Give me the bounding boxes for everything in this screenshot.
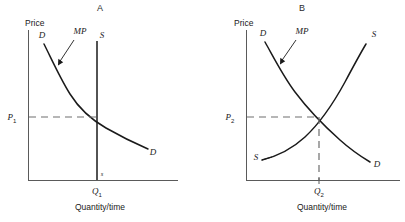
panel-b-mp-leader (282, 40, 297, 61)
panel-a-x-axis-label: Quantity/time (75, 202, 125, 212)
panel-b-quantity-subscript: 2 (321, 192, 325, 198)
panel-a-price-subscript: 1 (13, 118, 17, 124)
panel-a: A Price D D S s MP P1 Q1 Quantity/time (7, 3, 178, 212)
panel-b-quantity-label: Q2 (314, 186, 325, 198)
panel-b-supply-leader (262, 157, 272, 160)
supply-demand-figure: A Price D D S s MP P1 Q1 Quantity/time B… (0, 0, 405, 222)
panel-b-y-axis-label: Price (234, 18, 254, 28)
panel-a-title: A (97, 3, 103, 13)
panel-b-title: B (299, 3, 305, 13)
panel-a-price-label: P1 (7, 112, 18, 124)
panel-b-supply-curve (262, 44, 366, 160)
panel-a-y-axis-label: Price (25, 18, 45, 28)
panel-b-demand-label-top: D (259, 28, 267, 38)
panel-b-supply-label-bottom: S (254, 152, 259, 162)
panel-a-demand-label-top: D (38, 30, 46, 40)
panel-b-supply-label-top: S (372, 29, 377, 39)
panel-b-price-subscript: 2 (231, 118, 235, 124)
panel-a-mp-leader (60, 40, 75, 62)
panel-a-supply-label-bottom: s (101, 170, 104, 177)
panel-a-mp-label: MP (73, 26, 87, 36)
panel-b-price-label: P2 (225, 112, 236, 124)
panel-b-demand-label-bottom: D (373, 159, 381, 169)
panel-a-quantity-subscript: 1 (99, 192, 103, 198)
panel-b-x-axis-label: Quantity/time (297, 202, 347, 212)
panel-a-demand-label-bottom: D (149, 147, 157, 157)
panel-a-quantity-label: Q1 (92, 186, 103, 198)
panel-a-supply-label-top: S (100, 30, 105, 40)
panel-b: B Price D D S S MP P2 Q2 Quantity/time (225, 3, 400, 212)
figure-canvas: A Price D D S s MP P1 Q1 Quantity/time B… (0, 0, 405, 222)
panel-b-mp-label: MP (295, 26, 309, 36)
